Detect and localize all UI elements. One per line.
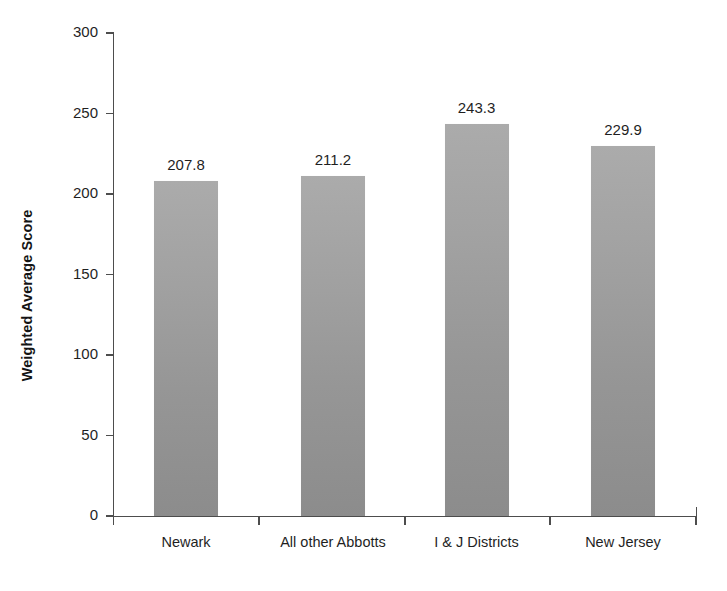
bar-value-label: 243.3 (417, 99, 537, 116)
x-axis-tick (549, 516, 550, 525)
x-axis-tick (113, 516, 114, 525)
y-axis-tick (106, 193, 114, 194)
y-axis-tick (106, 354, 114, 355)
x-axis-end-cap (696, 507, 697, 516)
y-axis-tick-label-text: 200 (73, 184, 98, 201)
bar-value-label: 211.2 (273, 151, 393, 168)
y-axis-tick-label-text: 300 (73, 23, 98, 40)
bar (301, 176, 365, 516)
x-axis-label: New Jersey (533, 534, 713, 550)
bar (591, 146, 655, 516)
y-axis-title-text: Weighted Average Score (19, 210, 35, 382)
y-axis-tick-label-text: 250 (73, 104, 98, 121)
x-axis-tick (404, 516, 405, 525)
bar-value-label: 229.9 (563, 121, 683, 138)
x-axis-tick (695, 516, 696, 525)
y-axis-tick-label-text: 50 (81, 426, 98, 443)
bar-value-label: 207.8 (126, 156, 246, 173)
y-axis-tick (106, 113, 114, 114)
bar (445, 124, 509, 516)
y-axis-tick-label-text: 0 (90, 506, 98, 523)
y-axis-tick (106, 32, 114, 33)
x-axis-tick (258, 516, 259, 525)
y-axis-tick-label-text: 100 (73, 345, 98, 362)
y-axis-tick (106, 274, 114, 275)
bar (154, 181, 218, 516)
y-axis-tick (106, 435, 114, 436)
bar-chart: Weighted Average Score 05010015020025030… (0, 0, 727, 591)
y-axis-tick-label-text: 150 (73, 265, 98, 282)
y-axis-title: Weighted Average Score (0, 0, 64, 591)
